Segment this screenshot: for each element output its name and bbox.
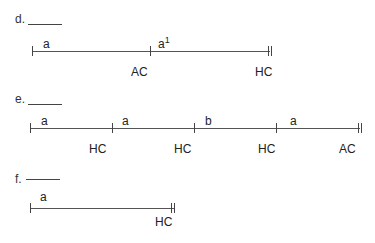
problem-e-timeline [30, 128, 360, 129]
problem-d-timeline [32, 51, 270, 52]
problem-e-tick-label-4: AC [339, 142, 356, 156]
problem-e-tick-label-2: HC [174, 142, 191, 156]
problem-f-tick-label-1: HC [155, 215, 172, 229]
problem-e-segment-3-label: b [205, 114, 212, 128]
problem-e-tick-2 [194, 123, 195, 133]
problem-d-answer-blank[interactable] [28, 24, 62, 25]
problem-d-tick-1 [150, 46, 151, 56]
problem-f-timeline [30, 208, 174, 209]
problem-d-segment-1-label: a [43, 37, 50, 51]
problem-d-tick-label-2: HC [255, 65, 272, 79]
segment-superscript: 1 [165, 35, 170, 45]
problem-f-end-double-tick-a [171, 203, 172, 213]
problem-e-header: e. [15, 92, 25, 106]
problem-e-tick-3 [276, 123, 277, 133]
problem-f-end-double-tick-b [174, 203, 175, 213]
segment-letter: a [158, 37, 165, 51]
problem-f-header: f. [15, 172, 22, 186]
problem-d-end-double-tick-b [271, 46, 272, 56]
problem-f-start-tick [30, 203, 31, 213]
problem-e-segment-1-label: a [41, 114, 48, 128]
problem-e-segment-2-label: a [122, 114, 129, 128]
problem-d-start-tick [32, 46, 33, 56]
problem-e-answer-blank[interactable] [28, 104, 62, 105]
problem-d-end-double-tick-a [268, 46, 269, 56]
problem-d-segment-2-label: a1 [158, 37, 170, 51]
problem-d-tick-label-1: AC [131, 65, 148, 79]
problem-e-end-double-tick-b [361, 123, 362, 133]
problem-e-segment-4-label: a [290, 114, 297, 128]
problem-e-tick-label-1: HC [89, 142, 106, 156]
problem-e-tick-label-3: HC [258, 142, 275, 156]
problem-e-start-tick [30, 123, 31, 133]
problem-f-segment-1-label: a [40, 190, 47, 204]
problem-d-header: d. [15, 12, 25, 26]
problem-e-tick-1 [112, 123, 113, 133]
problem-e-end-double-tick-a [358, 123, 359, 133]
problem-f-answer-blank[interactable] [26, 179, 60, 180]
